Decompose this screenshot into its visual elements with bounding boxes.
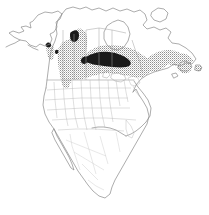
map-background bbox=[0, 0, 209, 215]
range-map-figure bbox=[0, 0, 209, 215]
north-america-map bbox=[0, 0, 209, 215]
